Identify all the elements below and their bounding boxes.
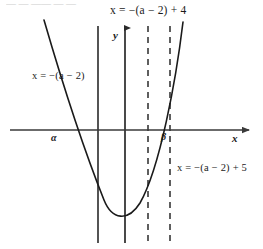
figure-container: — — —— — — x = −(a − 2) + 4 x = −(a − 2)… [0, 0, 263, 249]
root-label-beta: β [161, 132, 166, 142]
label-left-line: x = −(a − 2) [32, 71, 85, 82]
y-axis-label: y [113, 30, 118, 41]
x-axis-label: x [232, 133, 238, 144]
root-label-alpha: α [51, 133, 57, 143]
quadratic-graph-svg [0, 0, 263, 249]
parabola-curve [44, 20, 183, 216]
label-top-line: x = −(a − 2) + 4 [110, 5, 186, 17]
label-bottom-right-line: x = −(a − 2) + 5 [177, 163, 247, 174]
